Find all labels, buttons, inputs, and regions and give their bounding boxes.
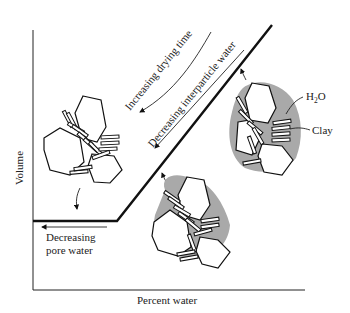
h2o-label: H2O [306, 90, 326, 105]
decreasing-pore-water-label-1: Decreasing [46, 231, 96, 243]
wet-particle-cluster [229, 82, 310, 175]
shrinkage-diagram: Volume Percent water Increasing drying t… [0, 0, 350, 313]
x-axis-label: Percent water [137, 294, 197, 306]
pointer-arrow-dry [76, 188, 80, 209]
dry-particle-cluster [44, 96, 122, 183]
pointer-arrow-wet [241, 69, 246, 80]
decreasing-pore-water-label-2: pore water [46, 244, 93, 256]
clay-label: Clay [312, 124, 333, 136]
y-axis-label: Volume [13, 151, 25, 185]
decreasing-interparticle-water-label: Decreasing interparticle water [145, 38, 238, 149]
intermediate-particle-cluster [152, 175, 230, 268]
